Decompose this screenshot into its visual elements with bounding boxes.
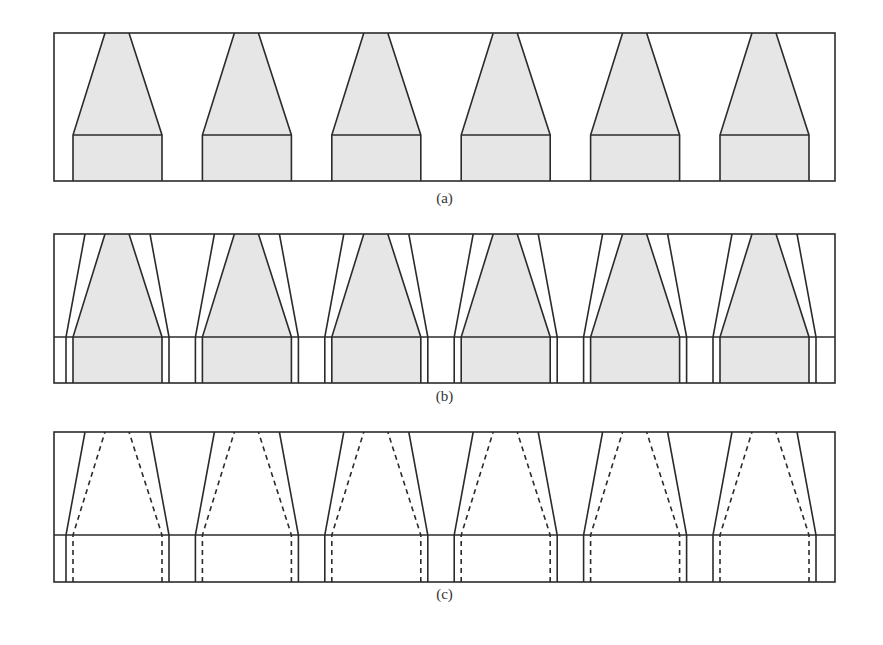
tooth-shape [73,33,162,181]
tooth-shape [713,432,816,582]
panel-label-b: (b) [436,388,454,405]
tooth-shape [325,432,428,582]
tooth-shape [454,234,557,383]
tooth-shape [713,234,816,383]
tooth-shape [584,432,687,582]
tooth-shape [195,234,298,383]
panel-label-c: (c) [436,586,453,603]
tooth-shape [332,33,421,181]
tooth-shape [720,33,809,181]
tooth-shape [66,432,169,582]
tooth-profile-diagram [0,0,883,645]
tooth-shape [591,33,680,181]
tooth-shape [195,432,298,582]
tooth-shape [202,33,291,181]
panel-a [54,33,835,181]
tooth-shape [454,432,557,582]
panel-b [54,234,835,383]
panel-label-a: (a) [436,190,453,207]
tooth-shape [461,33,550,181]
tooth-shape [584,234,687,383]
panel-c [54,432,835,582]
panel-frame [54,33,835,181]
tooth-shape [66,234,169,383]
tooth-shape [325,234,428,383]
